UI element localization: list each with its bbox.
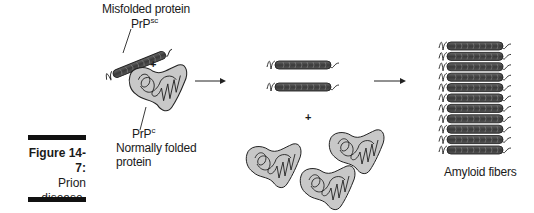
arrow-1 xyxy=(195,78,226,84)
misfolded-rods-pair xyxy=(267,61,339,91)
prpc-base: PrP xyxy=(132,127,151,141)
plus-sign-stage1: + xyxy=(150,57,156,71)
normally-folded-label-line2: protein xyxy=(116,155,151,169)
prpsc-superscript: sc xyxy=(150,16,158,25)
prpsc-symbol: PrPsc xyxy=(131,17,158,31)
normal-proteins-group xyxy=(246,130,384,210)
prpc-superscript: c xyxy=(151,126,155,135)
plus-sign-stage2: + xyxy=(305,110,311,124)
caption-bottom-bar xyxy=(28,197,86,202)
misfolded-protein-label: Misfolded protein xyxy=(102,2,190,16)
normally-folded-label-line1: Normally folded xyxy=(116,141,196,155)
caption-top-bar xyxy=(28,135,86,140)
normal-protein-blob xyxy=(129,65,186,111)
arrow-2 xyxy=(374,78,406,84)
prpc-symbol: PrPc xyxy=(132,127,155,141)
prpsc-base: PrP xyxy=(131,17,150,31)
amyloid-fibers-label: Amyloid fibers xyxy=(444,165,517,179)
caption-line-1: Prion xyxy=(20,176,86,191)
amyloid-fiber-stack xyxy=(439,42,511,154)
figure-number: Figure 14-7: xyxy=(20,146,86,176)
